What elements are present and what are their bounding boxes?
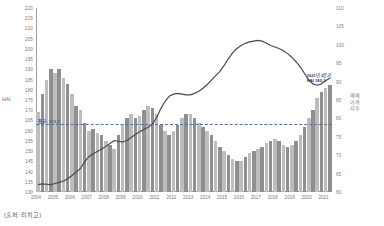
right-axis-tick: 65 bbox=[336, 171, 341, 176]
x-axis-tick: 2008 bbox=[99, 195, 109, 200]
average-label: 평균: 163.3 bbox=[38, 118, 59, 124]
right-axis-tick: 110 bbox=[336, 6, 344, 11]
x-axis-tick: 2005 bbox=[48, 195, 58, 200]
line-series-price-index bbox=[36, 8, 332, 192]
right-axis-title-line-3: 지수 bbox=[350, 105, 366, 112]
x-axis-tick: 2009 bbox=[115, 195, 125, 200]
x-axis-tick: 2012 bbox=[166, 195, 176, 200]
x-axis-tick: 2020 bbox=[302, 195, 312, 200]
left-axis-tick: 200 bbox=[25, 46, 33, 51]
x-axis-tick: 2014 bbox=[200, 195, 210, 200]
right-axis-title-line-1: 매매 bbox=[350, 92, 366, 99]
callout-line-2: HAI 182.3 bbox=[307, 78, 332, 83]
left-axis-title: HAI bbox=[2, 96, 11, 102]
right-axis-tick: 70 bbox=[336, 153, 341, 158]
x-axis-tick: 2004 bbox=[31, 195, 41, 200]
x-axis-tick: 2007 bbox=[82, 195, 92, 200]
x-axis-tick: 2017 bbox=[251, 195, 261, 200]
x-axis-tick: 2021 bbox=[318, 195, 328, 200]
right-axis-tick: 60 bbox=[336, 190, 341, 195]
left-axis-tick: 145 bbox=[25, 159, 33, 164]
left-axis-tick: 165 bbox=[25, 118, 33, 123]
right-axis-title: 매매 가격 지수 bbox=[350, 92, 366, 112]
x-axis-tick: 2016 bbox=[234, 195, 244, 200]
left-axis-tick: 195 bbox=[25, 57, 33, 62]
left-axis-tick: 190 bbox=[25, 67, 33, 72]
x-axis-tick: 2015 bbox=[217, 195, 227, 200]
left-axis-tick: 140 bbox=[25, 169, 33, 174]
left-axis-tick: 220 bbox=[25, 6, 33, 11]
average-reference-line bbox=[36, 124, 332, 125]
right-axis-tick: 80 bbox=[336, 116, 341, 121]
left-axis-tick: 205 bbox=[25, 36, 33, 41]
left-axis-tick: 130 bbox=[25, 190, 33, 195]
right-axis-title-line-2: 가격 bbox=[350, 99, 366, 106]
left-axis-tick: 155 bbox=[25, 138, 33, 143]
left-axis-tick: 170 bbox=[25, 108, 33, 113]
left-axis-tick: 160 bbox=[25, 128, 33, 133]
x-axis-tick: 2018 bbox=[268, 195, 278, 200]
callout-annotation: 2021년 2분기 HAI 182.3 bbox=[307, 73, 332, 83]
left-axis-tick: 150 bbox=[25, 149, 33, 154]
left-axis-tick: 210 bbox=[25, 26, 33, 31]
left-axis-tick: 180 bbox=[25, 87, 33, 92]
x-axis-tick: 2006 bbox=[65, 195, 75, 200]
right-axis-tick: 105 bbox=[336, 24, 344, 29]
left-axis-tick: 215 bbox=[25, 16, 33, 21]
right-axis-tick: 75 bbox=[336, 134, 341, 139]
left-axis-tick: 185 bbox=[25, 77, 33, 82]
x-axis-tick: 2011 bbox=[149, 195, 159, 200]
x-axis-tick: 2019 bbox=[285, 195, 295, 200]
right-axis-tick: 90 bbox=[336, 79, 341, 84]
left-axis-tick: 175 bbox=[25, 98, 33, 103]
plot-area: 평균: 163.3 220215210205200195190185180175… bbox=[36, 8, 332, 192]
right-axis-tick: 100 bbox=[336, 42, 344, 47]
right-axis-tick: 95 bbox=[336, 61, 341, 66]
x-axis-tick: 2013 bbox=[183, 195, 193, 200]
right-axis-tick: 85 bbox=[336, 98, 341, 103]
x-axis-tick: 2010 bbox=[132, 195, 142, 200]
chart-container: HAI 매매 가격 지수 평균: 163.3 22021521020520019… bbox=[0, 0, 384, 226]
source-note: (출처: 리치고) bbox=[4, 210, 41, 219]
price-index-line bbox=[38, 40, 330, 184]
left-axis-tick: 135 bbox=[25, 179, 33, 184]
